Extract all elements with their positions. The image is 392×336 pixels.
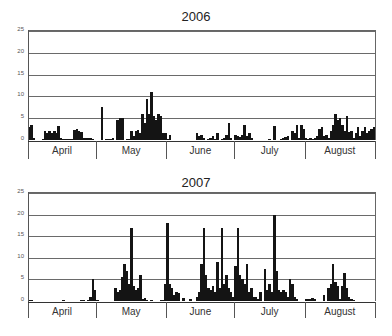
y-axis	[28, 30, 29, 159]
y-tick-label: 20	[10, 48, 24, 54]
bar	[92, 139, 95, 140]
plot-area	[28, 30, 376, 140]
gridline	[28, 75, 375, 76]
y-tick-label: 25	[10, 188, 24, 194]
bar	[203, 138, 206, 140]
plot-area	[28, 192, 376, 301]
y-tick-label: 5	[10, 113, 24, 119]
bar	[121, 118, 124, 140]
x-axis	[28, 302, 375, 303]
bar	[96, 300, 99, 301]
chart-title: 2006	[0, 9, 392, 24]
y-tick-label: 5	[10, 274, 24, 280]
bar	[101, 107, 104, 140]
gridline	[28, 118, 375, 119]
bar	[139, 275, 142, 301]
bar	[62, 300, 65, 301]
bar	[169, 135, 172, 140]
gridline	[28, 53, 375, 54]
gridline	[28, 236, 375, 237]
month-separator	[375, 302, 376, 318]
chart-2006: 2006 0510152025AprilMayJuneJulyAugust	[0, 0, 392, 168]
y-tick-label: 20	[10, 210, 24, 216]
bar	[314, 299, 317, 301]
chart-2007: 2007 0510152025AprilMayJuneJulyAugust	[0, 168, 392, 336]
bar	[30, 300, 33, 301]
bar	[323, 295, 326, 301]
bar	[250, 138, 253, 140]
bar	[150, 300, 153, 301]
gridline	[28, 193, 375, 194]
bar	[178, 293, 181, 301]
bar	[259, 292, 262, 301]
bar	[373, 127, 376, 140]
y-tick-label: 25	[10, 26, 24, 32]
y-tick-label: 10	[10, 91, 24, 97]
y-tick-label: 15	[10, 231, 24, 237]
month-label: June	[166, 145, 234, 156]
y-axis	[28, 192, 29, 318]
y-tick-label: 15	[10, 70, 24, 76]
month-label: July	[234, 145, 304, 156]
month-label: May	[96, 306, 166, 317]
month-label: May	[96, 145, 166, 156]
month-label: April	[28, 145, 96, 156]
x-axis	[28, 141, 375, 142]
bar	[182, 298, 185, 301]
bar	[273, 126, 276, 140]
bar	[82, 300, 85, 301]
gridline	[28, 96, 375, 97]
y-tick-label: 10	[10, 253, 24, 259]
month-label: August	[305, 145, 375, 156]
gridline	[28, 215, 375, 216]
month-label: June	[166, 306, 234, 317]
month-separator	[375, 141, 376, 159]
bar	[296, 299, 299, 301]
y-tick-label: 0	[10, 296, 24, 302]
bar	[352, 300, 355, 301]
bar	[112, 138, 115, 140]
bar	[287, 136, 290, 140]
bar	[33, 138, 36, 140]
bar	[268, 139, 271, 140]
gridline	[28, 258, 375, 259]
bar	[230, 138, 233, 140]
month-label: July	[234, 306, 304, 317]
bar	[189, 299, 192, 301]
y-tick-label: 0	[10, 135, 24, 141]
bar	[146, 300, 149, 301]
month-label: April	[28, 306, 96, 317]
chart-title: 2007	[0, 175, 392, 190]
month-label: August	[305, 306, 375, 317]
bar	[216, 133, 219, 140]
gridline	[28, 31, 375, 32]
